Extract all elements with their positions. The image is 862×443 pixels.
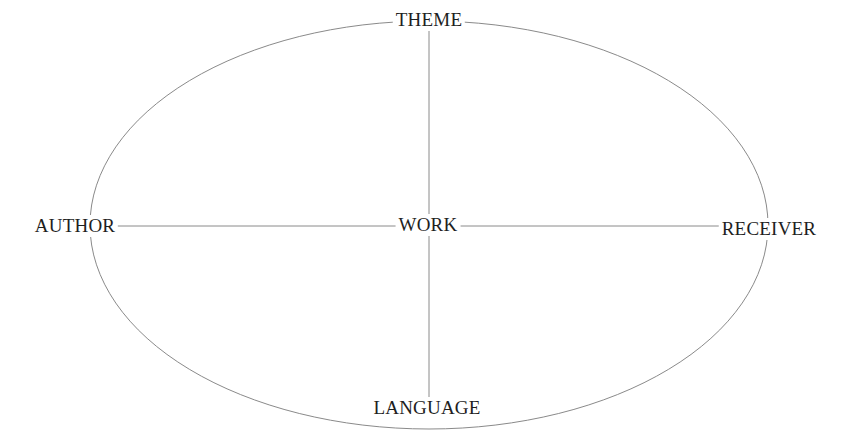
node-receiver: RECEIVER bbox=[719, 218, 820, 240]
node-work: WORK bbox=[396, 214, 461, 236]
node-language: LANGUAGE bbox=[370, 397, 483, 419]
node-theme: THEME bbox=[393, 9, 465, 31]
node-author: AUTHOR bbox=[32, 215, 118, 237]
